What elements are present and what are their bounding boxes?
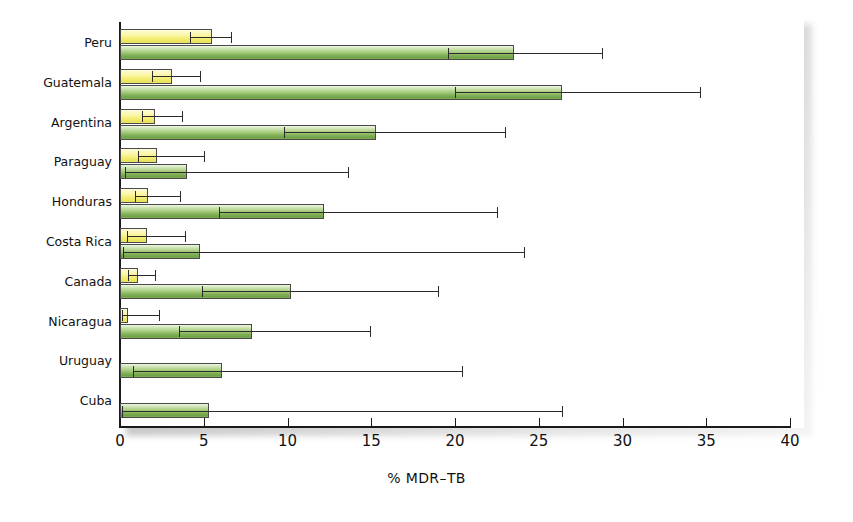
error-bar-line — [135, 196, 180, 197]
x-tick-label: 15 — [362, 432, 381, 450]
error-bar-cap — [185, 231, 186, 242]
error-bar-cap — [135, 191, 136, 202]
error-bar-cap — [122, 310, 123, 321]
error-bar-cap — [142, 111, 143, 122]
x-tick-label: 20 — [445, 432, 464, 450]
x-tick-label: 35 — [697, 432, 716, 450]
error-bar-cap — [231, 32, 232, 43]
x-tick — [288, 418, 289, 427]
error-bar-line — [123, 252, 523, 253]
error-bar-line — [125, 172, 348, 173]
error-bar-cap — [438, 286, 439, 297]
plot-area: 0510152025303540 PeruGuatemalaArgentinaP… — [0, 0, 853, 522]
category-label: Uruguay — [59, 353, 112, 368]
x-axis-title: % MDR–TB — [0, 470, 853, 486]
error-bar-cap — [455, 87, 456, 98]
error-bar-line — [128, 275, 155, 276]
error-bar-line — [122, 315, 159, 316]
x-tick — [455, 418, 456, 427]
error-bar-cap — [127, 231, 128, 242]
category-label: Argentina — [51, 114, 112, 129]
x-tick-label: 25 — [529, 432, 548, 450]
error-bar-cap — [602, 48, 603, 59]
error-bar-line — [219, 212, 497, 213]
error-bar-line — [448, 53, 602, 54]
error-bar-cap — [179, 326, 180, 337]
x-tick — [204, 418, 205, 427]
error-bar-cap — [284, 127, 285, 138]
error-bar-cap — [122, 406, 123, 417]
error-bar-cap — [700, 87, 701, 98]
error-bar-cap — [159, 310, 160, 321]
x-tick — [623, 418, 624, 427]
error-bar-cap — [562, 406, 563, 417]
error-bar-cap — [125, 167, 126, 178]
error-bar-cap — [152, 71, 153, 82]
category-label: Costa Rica — [46, 233, 112, 248]
x-tick-label: 40 — [780, 432, 799, 450]
error-bar-cap — [202, 286, 203, 297]
error-bar-line — [138, 156, 203, 157]
error-bar-cap — [200, 71, 201, 82]
error-bar-line — [127, 236, 186, 237]
chart-figure: 0510152025303540 PeruGuatemalaArgentinaP… — [0, 0, 853, 522]
category-label: Guatemala — [43, 74, 112, 89]
x-tick-label: 5 — [199, 432, 209, 450]
x-tick — [371, 418, 372, 427]
category-label: Peru — [84, 34, 112, 49]
error-bar-line — [122, 411, 563, 412]
category-label: Cuba — [80, 393, 112, 408]
error-bar-cap — [219, 207, 220, 218]
error-bar-cap — [133, 366, 134, 377]
error-bar-cap — [182, 111, 183, 122]
error-bar-cap — [462, 366, 463, 377]
error-bar-cap — [128, 270, 129, 281]
error-bar-cap — [204, 151, 205, 162]
error-bar-cap — [348, 167, 349, 178]
error-bar-cap — [370, 326, 371, 337]
category-label: Paraguay — [54, 154, 112, 169]
x-tick — [539, 418, 540, 427]
error-bar-cap — [123, 247, 124, 258]
x-tick — [120, 418, 121, 427]
x-tick-label: 0 — [115, 432, 125, 450]
error-bar-line — [202, 291, 438, 292]
error-bar-cap — [180, 191, 181, 202]
x-tick — [790, 418, 791, 427]
error-bar-cap — [505, 127, 506, 138]
error-bar-cap — [448, 48, 449, 59]
error-bar-line — [152, 76, 201, 77]
error-bar-cap — [138, 151, 139, 162]
category-label: Canada — [64, 273, 112, 288]
category-label: Nicaragua — [48, 313, 112, 328]
error-bar-line — [455, 92, 700, 93]
error-bar-line — [142, 116, 182, 117]
error-bar-cap — [497, 207, 498, 218]
category-label: Honduras — [52, 194, 112, 209]
error-bar-line — [179, 331, 370, 332]
error-bar-cap — [155, 270, 156, 281]
x-tick — [706, 418, 707, 427]
error-bar-line — [133, 371, 461, 372]
error-bar-line — [190, 37, 230, 38]
x-tick-label: 30 — [613, 432, 632, 450]
x-tick-label: 10 — [278, 432, 297, 450]
error-bar-cap — [190, 32, 191, 43]
error-bar-cap — [524, 247, 525, 258]
error-bar-line — [284, 132, 505, 133]
